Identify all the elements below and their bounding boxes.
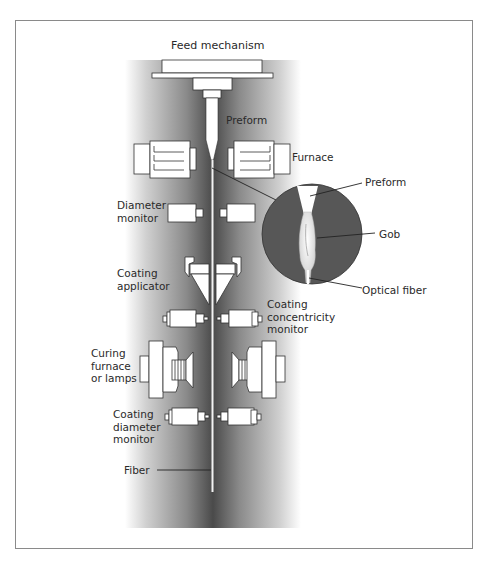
furnace-right xyxy=(228,141,290,178)
label-coating-applicator: Coating applicator xyxy=(117,267,170,292)
label-curing-furnace: Curing furnace or lamps xyxy=(91,347,137,385)
inset-magnified-view xyxy=(262,184,362,284)
label-furnace: Furnace xyxy=(292,151,334,164)
label-coating-concentricity-monitor: Coating concentricity monitor xyxy=(267,298,335,336)
label-preform: Preform xyxy=(226,114,267,127)
inset-label-optical-fiber: Optical fiber xyxy=(362,284,426,297)
label-diameter-monitor: Diameter monitor xyxy=(117,199,166,224)
label-feed-mechanism: Feed mechanism xyxy=(171,40,264,53)
inset-label-gob: Gob xyxy=(379,228,400,241)
label-fiber: Fiber xyxy=(124,464,150,477)
label-coating-diameter-monitor: Coating diameter monitor xyxy=(113,408,161,446)
furnace-left xyxy=(134,141,196,178)
inset-label-preform: Preform xyxy=(365,176,406,189)
